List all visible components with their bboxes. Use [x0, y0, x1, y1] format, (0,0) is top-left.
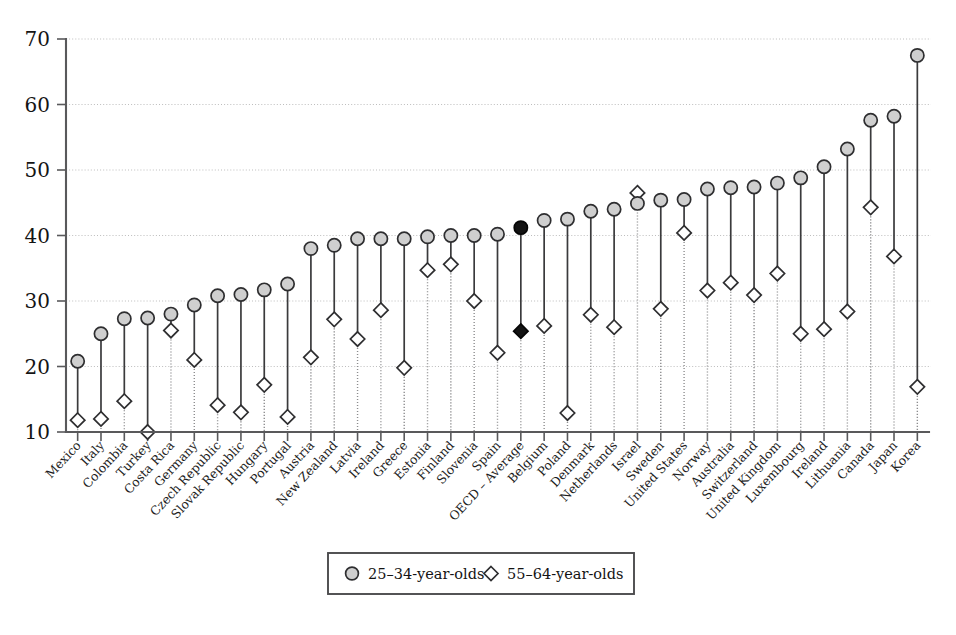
data-point-55-64 — [840, 304, 854, 318]
data-point-25-34 — [234, 288, 247, 301]
data-point-55-64 — [467, 294, 481, 308]
y-axis-tick-label: 20 — [25, 355, 50, 379]
y-axis-tick-label: 60 — [25, 93, 50, 117]
stems-group — [78, 55, 918, 432]
data-point-25-34 — [281, 277, 294, 290]
data-point-55-64 — [397, 361, 411, 375]
data-point-55-64 — [700, 283, 714, 297]
data-point-25-34 — [631, 197, 644, 210]
data-point-55-64 — [117, 394, 131, 408]
legend-label: 25–34-year-olds — [368, 566, 484, 582]
y-axis-tick-label: 30 — [25, 289, 50, 313]
data-point-55-64 — [210, 398, 224, 412]
data-point-25-34 — [491, 228, 504, 241]
legend-marker-circle — [346, 567, 359, 580]
data-point-55-64 — [164, 323, 178, 337]
data-point-25-34 — [258, 283, 271, 296]
data-point-55-64 — [584, 308, 598, 322]
data-point-55-64 — [490, 346, 504, 360]
figure-container: 10203040506070 MexicoItalyColombiaTurkey… — [0, 0, 956, 635]
y-axis-ticks-group — [57, 39, 66, 432]
data-point-55-64 — [654, 302, 668, 316]
data-point-25-34 — [794, 171, 807, 184]
data-point-55-64 — [887, 249, 901, 263]
x-axis-ticks-group — [78, 432, 918, 441]
data-point-55-64 — [374, 303, 388, 317]
data-point-25-34 — [421, 230, 434, 243]
data-point-25-34 — [164, 308, 177, 321]
data-point-25-34 — [701, 182, 714, 195]
data-point-25-34 — [398, 232, 411, 245]
data-point-25-34 — [771, 177, 784, 190]
data-point-55-64 — [420, 263, 434, 277]
data-point-25-34 — [538, 214, 551, 227]
y-axis-tick-label: 50 — [25, 158, 50, 182]
data-point-55-64 — [234, 405, 248, 419]
data-point-55-64 — [863, 200, 877, 214]
data-point-25-34 — [841, 142, 854, 155]
data-point-55-64 — [187, 353, 201, 367]
y-axis-tick-label: 40 — [25, 224, 50, 248]
data-point-25-34 — [677, 193, 690, 206]
data-point-25-34 — [911, 49, 924, 62]
data-point-55-64 — [444, 257, 458, 271]
data-point-25-34 — [118, 312, 131, 325]
category-labels-group: MexicoItalyColombiaTurkeyCosta RicaGerma… — [43, 438, 924, 523]
y-axis-labels-group: 10203040506070 — [25, 27, 50, 444]
data-point-55-64 — [257, 378, 271, 392]
data-point-55-64 — [70, 413, 84, 427]
data-point-25-34 — [724, 181, 737, 194]
data-point-25-34 — [211, 289, 224, 302]
data-point-55-64 — [677, 226, 691, 240]
data-point-25-34 — [374, 232, 387, 245]
data-point-25-34 — [584, 205, 597, 218]
data-point-55-64 — [304, 350, 318, 364]
data-point-25-34 — [747, 180, 760, 193]
data-point-25-34 — [71, 355, 84, 368]
data-point-55-64 — [280, 410, 294, 424]
data-point-55-64 — [327, 312, 341, 326]
data-point-25-34 — [188, 298, 201, 311]
data-point-25-34 — [141, 311, 154, 324]
data-point-55-64 — [94, 412, 108, 426]
data-point-55-64 — [537, 319, 551, 333]
data-point-55-64 — [350, 332, 364, 346]
data-point-55-64 — [910, 380, 924, 394]
data-point-25-34 — [304, 242, 317, 255]
data-point-25-34 — [864, 114, 877, 127]
data-point-25-34 — [94, 327, 107, 340]
data-point-55-64 — [817, 322, 831, 336]
tertiary-attainment-chart: 10203040506070 MexicoItalyColombiaTurkey… — [0, 0, 956, 635]
data-point-55-64 — [560, 406, 574, 420]
data-point-25-34 — [817, 160, 830, 173]
y-axis-tick-label: 10 — [25, 420, 50, 444]
data-point-25-34 — [351, 232, 364, 245]
y-axis-tick-label: 70 — [25, 27, 50, 51]
data-point-25-34 — [328, 239, 341, 252]
data-point-55-64 — [607, 320, 621, 334]
data-point-25-34 — [468, 229, 481, 242]
legend-label: 55–64-year-olds — [507, 566, 623, 582]
data-point-25-34 — [608, 203, 621, 216]
data-point-55-64 — [770, 266, 784, 280]
data-point-25-34 — [444, 229, 457, 242]
chart-legend: 25–34-year-olds55–64-year-olds — [328, 553, 634, 594]
data-point-55-64 — [794, 327, 808, 341]
data-point-55-64 — [747, 288, 761, 302]
data-point-25-34 — [561, 213, 574, 226]
data-point-25-34 — [514, 221, 527, 234]
data-point-55-64 — [514, 324, 528, 338]
data-point-25-34 — [887, 110, 900, 123]
data-point-55-64 — [724, 275, 738, 289]
data-point-25-34 — [654, 194, 667, 207]
